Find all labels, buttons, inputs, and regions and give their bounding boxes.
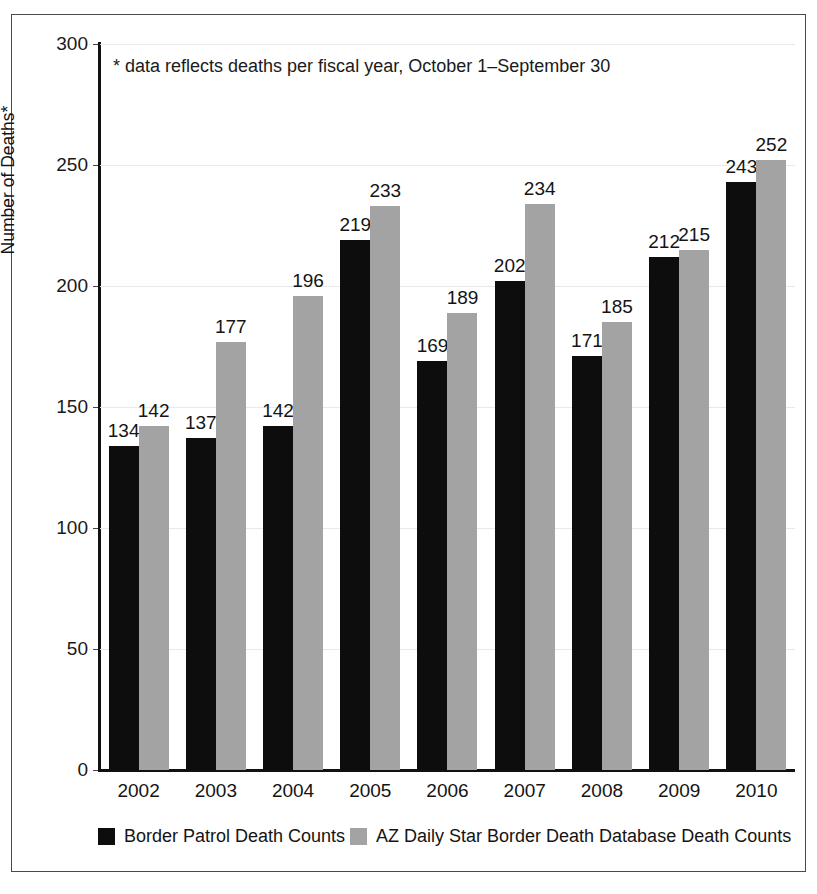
- chart-figure: Number of Deaths* 050100150200250300 134…: [0, 0, 817, 894]
- bar-2008-series0[interactable]: [572, 356, 602, 770]
- bar-2004-series0[interactable]: [263, 426, 293, 770]
- bar-value-label: 215: [678, 224, 710, 246]
- bar-2003-series1[interactable]: [216, 342, 246, 770]
- bar-value-label: 142: [138, 400, 170, 422]
- bar-2009-series0[interactable]: [649, 257, 679, 770]
- x-tick-label-2009: 2009: [658, 780, 700, 802]
- bar-value-label: 196: [292, 270, 324, 292]
- bar-value-label: 219: [339, 214, 371, 236]
- bar-2004-series1[interactable]: [293, 296, 323, 770]
- bar-2005-series1[interactable]: [370, 206, 400, 770]
- bar-value-label: 142: [262, 400, 294, 422]
- bar-value-label: 137: [185, 412, 217, 434]
- x-tick-label-2008: 2008: [581, 780, 623, 802]
- legend-label: AZ Daily Star Border Death Database Deat…: [376, 826, 791, 847]
- bar-value-label: 252: [756, 134, 788, 156]
- bar-value-label: 243: [726, 156, 758, 178]
- bar-value-label: 177: [215, 316, 247, 338]
- bar-group: 171185: [563, 44, 640, 770]
- bar-group: 243252: [718, 44, 795, 770]
- bar-value-label: 169: [417, 335, 449, 357]
- y-tick-label: 100: [8, 517, 88, 539]
- legend-swatch-icon: [98, 828, 115, 845]
- bar-2010-series0[interactable]: [726, 182, 756, 770]
- bar-2007-series0[interactable]: [495, 281, 525, 770]
- bar-value-label: 202: [494, 255, 526, 277]
- y-tick-label: 0: [8, 759, 88, 781]
- x-tick-label-2003: 2003: [195, 780, 237, 802]
- bar-group: 202234: [486, 44, 563, 770]
- bar-value-label: 234: [524, 178, 556, 200]
- bar-2009-series1[interactable]: [679, 250, 709, 770]
- bar-2006-series1[interactable]: [447, 313, 477, 770]
- bar-group: 212215: [641, 44, 718, 770]
- bar-group: 142196: [254, 44, 331, 770]
- bar-2002-series1[interactable]: [139, 426, 169, 770]
- legend-label: Border Patrol Death Counts: [124, 826, 345, 847]
- y-tick-label: 250: [8, 154, 88, 176]
- bar-value-label: 171: [571, 330, 603, 352]
- bar-value-label: 212: [648, 231, 680, 253]
- bar-2006-series0[interactable]: [417, 361, 447, 770]
- bar-value-label: 134: [108, 420, 140, 442]
- plot-area: 1341421371771421962192331691892022341711…: [100, 44, 795, 770]
- bar-2007-series1[interactable]: [525, 204, 555, 770]
- y-tick-label: 300: [8, 33, 88, 55]
- bar-group: 169189: [409, 44, 486, 770]
- bar-group: 137177: [177, 44, 254, 770]
- y-axis-tick-labels: 050100150200250300: [0, 0, 88, 894]
- legend-swatch-icon: [350, 828, 367, 845]
- x-tick-label-2010: 2010: [735, 780, 777, 802]
- legend-entry-1[interactable]: AZ Daily Star Border Death Database Deat…: [350, 826, 791, 847]
- bar-value-label: 185: [601, 296, 633, 318]
- y-tick-label: 200: [8, 275, 88, 297]
- x-tick-label-2007: 2007: [504, 780, 546, 802]
- bar-value-label: 189: [447, 287, 479, 309]
- footnote-annotation: * data reflects deaths per fiscal year, …: [113, 56, 610, 77]
- x-tick-label-2006: 2006: [426, 780, 468, 802]
- legend-entry-0[interactable]: Border Patrol Death Counts: [98, 826, 345, 847]
- bar-2010-series1[interactable]: [756, 160, 786, 770]
- y-tick-label: 150: [8, 396, 88, 418]
- bar-group: 134142: [100, 44, 177, 770]
- bar-2005-series0[interactable]: [340, 240, 370, 770]
- x-tick-label-2004: 2004: [272, 780, 314, 802]
- bar-value-label: 233: [369, 180, 401, 202]
- bar-2002-series0[interactable]: [109, 446, 139, 770]
- chart-legend: Border Patrol Death CountsAZ Daily Star …: [0, 826, 817, 856]
- x-tick-label-2002: 2002: [117, 780, 159, 802]
- bar-2008-series1[interactable]: [602, 322, 632, 770]
- bar-2003-series0[interactable]: [186, 438, 216, 770]
- y-tick-label: 50: [8, 638, 88, 660]
- x-tick-label-2005: 2005: [349, 780, 391, 802]
- bar-group: 219233: [332, 44, 409, 770]
